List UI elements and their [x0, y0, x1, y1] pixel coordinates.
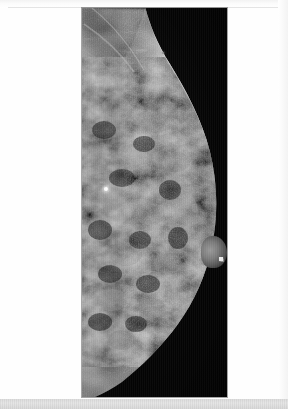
- nipple-bb-marker-icon: [219, 257, 223, 261]
- scanned-radiograph-page: [0, 0, 288, 409]
- breast-silhouette: [82, 8, 227, 397]
- nipple-profile: [201, 236, 227, 268]
- background-speck-icon: [162, 52, 164, 54]
- paper-right-shading: [278, 0, 288, 399]
- breast-tissue-region: [82, 8, 227, 397]
- calcification-marker-icon: [104, 187, 108, 191]
- breast-anatomy-render: [82, 8, 227, 397]
- mammogram-film: [82, 8, 227, 397]
- scanner-bottom-strip: [0, 399, 288, 409]
